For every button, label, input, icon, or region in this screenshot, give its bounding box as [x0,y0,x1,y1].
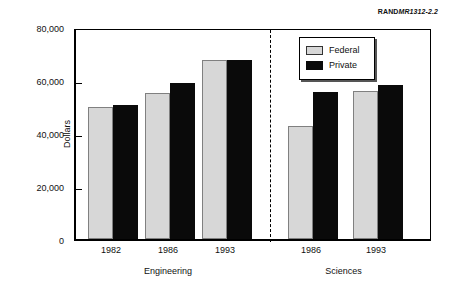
x-tick-label: 1986 [158,246,178,255]
bar-private-1982-0 [113,105,138,239]
bar-private-1986-3 [313,92,338,239]
chart-figure: RANDMR1312-2.2 020,00040,00060,00080,000… [0,0,450,296]
report-id: RANDMR1312-2.2 [378,8,438,15]
legend-label-federal: Federal [329,46,360,55]
bar-federal-1982-0 [88,107,113,239]
legend-swatch-private-icon [306,61,323,70]
chart-legend: Federal Private [299,37,375,80]
x-group-label-sciences: Sciences [325,267,362,276]
y-axis-title: Dollars [62,120,72,148]
y-tick-label: 60,000 [0,78,70,87]
bar-private-1993-4 [378,85,403,239]
y-tick-label: 20,000 [0,184,70,193]
y-tick-mark [76,83,82,84]
plot-area: Dollars [74,29,431,241]
report-id-italic: MR1312-2.2 [398,8,438,15]
y-tick-label: 0 [0,237,70,246]
report-id-bold: RAND [378,8,399,15]
legend-swatch-federal-icon [306,46,323,55]
group-divider [270,30,271,242]
legend-label-private: Private [329,61,357,70]
y-tick-mark [76,189,82,190]
bar-private-1986-1 [170,83,195,239]
bar-federal-1986-1 [145,93,170,239]
legend-item-private: Private [306,58,368,73]
bar-federal-1993-4 [353,91,378,239]
x-tick-label: 1993 [215,246,235,255]
bar-federal-1993-2 [202,60,227,239]
x-group-label-engineering: Engineering [144,267,192,276]
x-tick-label: 1993 [366,246,386,255]
y-tick-label: 80,000 [0,25,70,34]
x-axis-group-labels: EngineeringSciences [0,267,450,287]
x-axis-tick-labels: 19821986199319861993 [0,246,450,266]
x-tick-label: 1982 [101,246,121,255]
bar-private-1993-2 [227,60,252,239]
y-tick-mark [76,136,82,137]
bar-federal-1986-3 [288,126,313,239]
x-tick-label: 1986 [301,246,321,255]
y-tick-label: 40,000 [0,131,70,140]
legend-item-federal: Federal [306,43,368,58]
